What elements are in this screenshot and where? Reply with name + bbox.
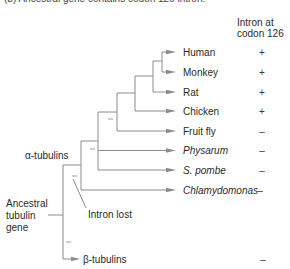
taxon-label-chicken: Chicken <box>183 106 219 117</box>
root-label-line1: Ancestral <box>6 198 48 209</box>
column-header-line2: codon 126 <box>237 28 284 39</box>
intron-status-chicken: + <box>259 106 265 117</box>
intron-status-chlamydomonas: – <box>257 185 263 196</box>
intron-status-s-pombe: – <box>259 165 265 176</box>
taxon-label-beta-tubulins: β-tubulins <box>83 254 127 265</box>
intron-status-beta-tubulins: – <box>260 254 266 265</box>
taxon-label-fruit-fly: Fruit fly <box>183 126 216 137</box>
root-label-line2: tubulin <box>6 210 35 221</box>
alpha-tubulins-label: α-tubulins <box>25 150 69 161</box>
arrow-icon <box>166 50 176 54</box>
intron-lost-pointer <box>73 179 86 208</box>
arrow-icon <box>166 148 176 152</box>
figure-caption-clipped: (b) Ancestral gene contains codon 126 in… <box>4 0 205 4</box>
intron-status-human: + <box>259 47 265 58</box>
arrow-icon <box>166 168 176 172</box>
intron-status-physarum: – <box>259 145 265 156</box>
arrowheads <box>71 50 176 261</box>
arrow-icon <box>166 129 176 133</box>
phylogenetic-tree-diagram: (b) Ancestral gene contains codon 126 in… <box>0 0 290 269</box>
intron-status-fruit-fly: – <box>259 126 265 137</box>
intron-status-rat: + <box>259 87 265 98</box>
arrow-icon <box>166 188 176 192</box>
intron-status-monkey: + <box>259 67 265 78</box>
arrow-icon <box>166 70 176 74</box>
taxon-label-s-pombe: S. pombe <box>183 165 226 176</box>
arrow-icon <box>166 90 176 94</box>
taxon-label-physarum: Physarum <box>183 145 228 156</box>
taxon-label-chlamydomonas: Chlamydomonas <box>183 185 258 196</box>
taxon-label-monkey: Monkey <box>183 67 218 78</box>
intron-loss-marks <box>66 119 113 242</box>
root-label-line3: gene <box>6 222 29 233</box>
intron-lost-label: Intron lost <box>88 209 132 220</box>
taxon-label-human: Human <box>183 47 215 58</box>
taxon-label-rat: Rat <box>183 87 199 98</box>
arrow-icon <box>166 109 176 113</box>
column-header-line1: Intron at <box>237 17 274 28</box>
arrow-icon <box>71 257 80 261</box>
